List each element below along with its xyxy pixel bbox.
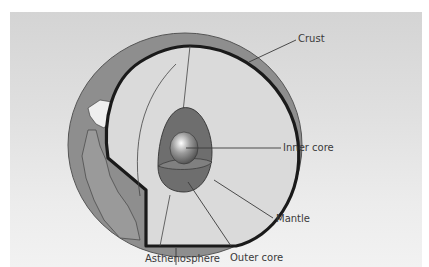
label-mantle: Mantle [276,213,310,224]
label-asthenosphere: Asthenosphere [145,253,220,264]
label-inner-core: Inner core [283,142,334,153]
label-crust: Crust [298,33,325,44]
label-outer-core: Outer core [230,252,283,263]
earth-cutaway-diagram [0,0,429,267]
